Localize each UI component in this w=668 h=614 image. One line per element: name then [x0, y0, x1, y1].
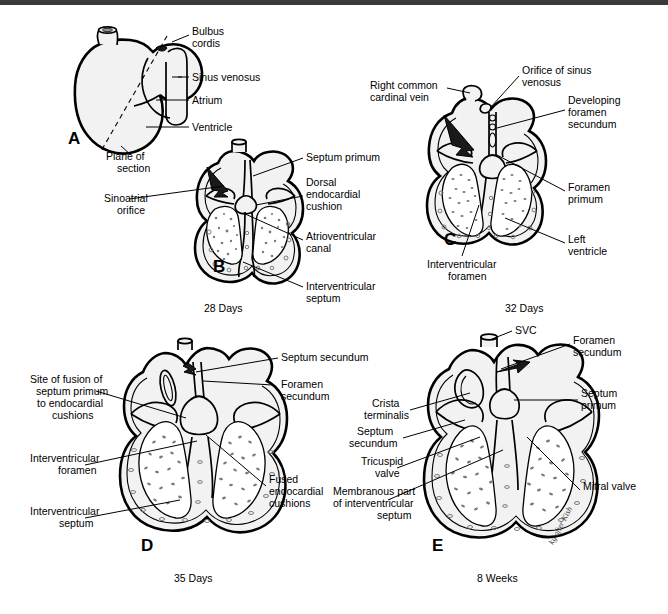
label-foramen-secundum-e-line2: secundum: [573, 346, 622, 358]
label-left-ventricle-line2: ventricle: [568, 245, 607, 257]
label-site-fusion-line4: cushions: [52, 409, 93, 421]
heart-section-outline-e: [424, 345, 599, 538]
label-membranous-line3: septum: [377, 509, 412, 521]
label-site-fusion-line2: septum primum: [36, 385, 109, 397]
label-atrium: Atrium: [192, 94, 223, 106]
label-iv-septum-b-line1: Interventricular: [306, 280, 376, 292]
panel-letter-e: E: [432, 536, 443, 555]
label-ventricle: Ventricle: [192, 121, 232, 133]
label-crista-terminalis-line2: terminalis: [364, 409, 409, 421]
stage-label-b: 28 Days: [204, 302, 243, 314]
stage-label-e: 8 Weeks: [477, 572, 518, 584]
label-av-canal-line2: canal: [306, 242, 331, 254]
label-left-ventricle-line1: Left: [568, 233, 586, 245]
label-mitral-valve: Mitral valve: [583, 480, 636, 492]
panel-e: E kg after Kish SVC Foramen secundum Sep…: [333, 324, 636, 584]
label-fused-cushions-line2: endocardial: [269, 485, 323, 497]
stage-label-d: 35 Days: [174, 572, 213, 584]
label-fused-cushions-line1: Fused: [269, 473, 298, 485]
label-sinoatrial-orifice-line1: Sinoatrial: [104, 192, 148, 204]
label-bulbus-cordis-line2: cordis: [192, 37, 220, 49]
label-fused-cushions-line3: cushions: [269, 497, 310, 509]
label-dev-foramen-sec-line3: secundum: [568, 118, 617, 130]
label-iv-septum-d-line2: septum: [59, 517, 94, 529]
stage-label-c: 32 Days: [505, 302, 544, 314]
label-membranous-line2: of interventricular: [333, 497, 414, 509]
outflow-lumen-inner: [103, 28, 113, 31]
label-septum-secundum-shared: Septum secundum: [281, 351, 369, 363]
label-crista-terminalis-line1: Crista: [372, 397, 400, 409]
label-septum-primum-b: Septum primum: [306, 151, 380, 163]
label-foramen-secundum-e-line1: Foramen: [573, 334, 615, 346]
label-bulbus-cordis-line1: Bulbus: [192, 25, 224, 37]
label-dorsal-cushion-line3: cushion: [306, 200, 342, 212]
label-plane-of-section-line2: section: [117, 162, 150, 174]
label-septum-primum-e-line2: primum: [581, 399, 616, 411]
heart-development-figure: A Bulbus cordis Sinus venosus Atrium Ven…: [0, 0, 668, 614]
label-septum-primum-e-line1: Septum: [581, 387, 617, 399]
panel-letter-b: B: [213, 257, 225, 276]
dorsal-endocardial-cushion-b: [235, 196, 256, 214]
label-iv-foramen-d-line2: foramen: [58, 464, 97, 476]
panel-d: D Site of fusion of septum primum to end…: [30, 338, 369, 584]
label-orifice-sv-line2: venosus: [522, 76, 561, 88]
label-iv-foramen-c-line2: foramen: [448, 270, 487, 282]
label-svc: SVC: [515, 324, 537, 336]
label-septum-secundum-e-line1: Septum: [357, 425, 393, 437]
outflow-stub-lumen-d: [178, 338, 192, 343]
orifice-sinus-venosus-c: [480, 104, 491, 113]
label-plane-of-section-line1: Plane of: [106, 150, 145, 162]
sinus-venosus-tube: [166, 48, 187, 125]
label-foramen-secundum-d-line2: secundum: [281, 390, 330, 402]
label-orifice-sv-line1: Orifice of sinus: [522, 64, 591, 76]
leader-bulbus-cordis: [172, 35, 189, 42]
foramen-secundum-perforation-1: [490, 115, 496, 121]
right-common-cardinal-vein-c: [463, 86, 482, 101]
septum-primum-flap-e: [490, 389, 519, 419]
panel-letter-a: A: [68, 129, 80, 148]
figure-canvas: A Bulbus cordis Sinus venosus Atrium Ven…: [0, 0, 668, 614]
panel-c: C Right common cardinal vein Orifice of …: [370, 64, 621, 314]
foramen-secundum-perforation-3: [489, 133, 495, 147]
label-dorsal-cushion-line2: endocardial: [306, 188, 360, 200]
label-septum-secundum-e-line2: secundum: [349, 437, 398, 449]
foramen-secundum-perforation-2: [490, 124, 496, 130]
label-membranous-line1: Membranous part: [333, 485, 415, 497]
label-foramen-primum-line1: Foramen: [568, 181, 610, 193]
label-iv-septum-b-line2: septum: [306, 292, 341, 304]
label-dev-foramen-sec-line1: Developing: [568, 94, 621, 106]
panel-letter-d: D: [141, 536, 153, 555]
label-av-canal-line1: Atrioventricular: [306, 230, 377, 242]
label-tricuspid-valve-line1: Tricuspid: [361, 455, 403, 467]
label-tricuspid-valve-line2: valve: [375, 467, 400, 479]
panel-letter-c: C: [444, 230, 456, 249]
label-sinoatrial-orifice-line2: orifice: [117, 204, 145, 216]
svc-lumen-e: [481, 334, 497, 340]
label-site-fusion-line1: Site of fusion of: [30, 373, 102, 385]
label-dev-foramen-sec-line2: foramen: [568, 106, 607, 118]
label-iv-foramen-c-line1: Interventricular: [427, 258, 497, 270]
label-site-fusion-line3: to endocardial: [37, 397, 103, 409]
label-dorsal-cushion-line1: Dorsal: [306, 176, 336, 188]
label-rccv-line2: cardinal vein: [370, 91, 429, 103]
label-iv-foramen-d-line1: Interventricular: [30, 452, 100, 464]
outflow-stub-lumen-b: [232, 139, 246, 144]
label-foramen-primum-line2: primum: [568, 193, 603, 205]
label-rccv-line1: Right common: [370, 79, 438, 91]
label-sinus-venosus: Sinus venosus: [192, 71, 260, 83]
label-iv-septum-d-line1: Interventricular: [30, 505, 100, 517]
label-foramen-secundum-d-line1: Foramen: [281, 378, 323, 390]
